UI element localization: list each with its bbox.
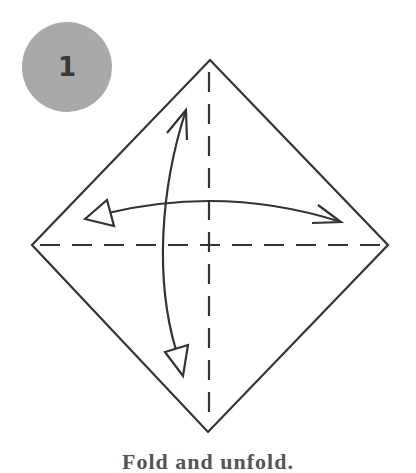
step-caption: Fold and unfold. [0, 449, 416, 473]
